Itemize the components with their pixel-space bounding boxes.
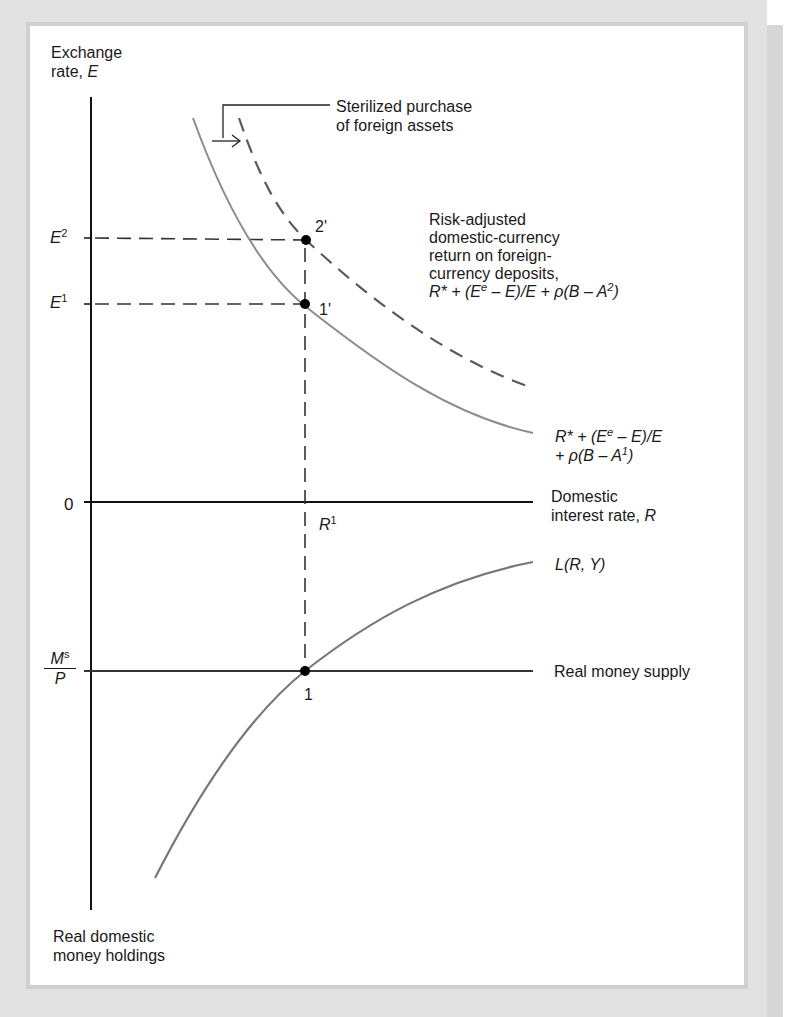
money-holdings-line2: money holdings bbox=[53, 946, 165, 965]
x-axis-label-line2: interest rate, R bbox=[551, 506, 656, 525]
risk-formula-b: – E)/E + ρ(B – A bbox=[487, 283, 607, 300]
r1-base: R bbox=[319, 516, 331, 533]
risk-line3: return on foreign- bbox=[429, 247, 619, 265]
e1-sup: 1 bbox=[61, 292, 67, 304]
x-axis-label-text: interest rate, bbox=[551, 507, 644, 524]
r1-label: R1 bbox=[319, 515, 337, 534]
point-2prime bbox=[301, 235, 311, 245]
y-axis-label-line1: Exchange bbox=[51, 43, 122, 62]
e1-label: E1 bbox=[50, 293, 67, 312]
point-1prime bbox=[300, 299, 310, 309]
point-1-label: 1 bbox=[304, 685, 313, 704]
money-supply-label: Real money supply bbox=[554, 662, 690, 681]
risk-line1: Risk-adjusted bbox=[429, 211, 619, 229]
x-axis-label: Domestic interest rate, R bbox=[551, 487, 656, 525]
curve-a1-line2-a: + ρ(B – A bbox=[555, 447, 622, 464]
r1-sup: 1 bbox=[331, 514, 337, 526]
point-1 bbox=[300, 666, 310, 676]
ms-base: M bbox=[51, 650, 64, 667]
ms-sup: s bbox=[64, 648, 70, 660]
curve-a1-line1-a: R* + (E bbox=[555, 428, 607, 445]
e2-label: E2 bbox=[50, 228, 67, 247]
risk-line4: currency deposits, bbox=[429, 265, 619, 283]
curve-a1-label: R* + (Ee – E)/E + ρ(B – A1) bbox=[555, 427, 662, 465]
curve-a1-line2-b: ) bbox=[628, 447, 633, 464]
ms-numerator: Ms bbox=[44, 650, 76, 669]
curve-a1-line1: R* + (Ee – E)/E bbox=[555, 427, 662, 446]
risk-adjusted-label: Risk-adjusted domestic-currency return o… bbox=[429, 211, 619, 301]
e2-base: E bbox=[50, 228, 61, 247]
e1-base: E bbox=[50, 293, 61, 312]
y-axis-variable: E bbox=[87, 63, 98, 80]
money-holdings-line1: Real domestic bbox=[53, 927, 165, 946]
x-axis-variable: R bbox=[644, 507, 656, 524]
curve-a1-line1-b: – E)/E bbox=[613, 428, 662, 445]
x-axis-label-line1: Domestic bbox=[551, 487, 656, 506]
e2-guide bbox=[95, 238, 305, 240]
risk-formula-c: ) bbox=[613, 283, 618, 300]
ms-denominator: P bbox=[44, 669, 76, 689]
money-demand-label: L(R, Y) bbox=[555, 555, 605, 574]
origin-label: 0 bbox=[64, 495, 73, 514]
money-holdings-label: Real domestic money holdings bbox=[53, 927, 165, 965]
risk-line2: domestic-currency bbox=[429, 229, 619, 247]
point-1prime-label: 1' bbox=[319, 300, 331, 319]
sterilized-line2: of foreign assets bbox=[336, 116, 472, 135]
point-2prime-label: 2' bbox=[315, 217, 327, 236]
y-axis-label: Exchange rate, E bbox=[51, 43, 122, 81]
risk-formula-a: R* + (E bbox=[429, 283, 481, 300]
sterilized-line1: Sterilized purchase bbox=[336, 97, 472, 116]
risk-formula: R* + (Ee – E)/E + ρ(B – A2) bbox=[429, 283, 619, 301]
y-axis-label-text: rate, bbox=[51, 63, 87, 80]
sterilized-purchase-label: Sterilized purchase of foreign assets bbox=[336, 97, 472, 135]
money-demand-curve bbox=[155, 562, 533, 878]
y-axis-label-line2: rate, E bbox=[51, 62, 122, 81]
curve-a1-line2: + ρ(B – A1) bbox=[555, 446, 662, 465]
e2-sup: 2 bbox=[61, 227, 67, 239]
diagram-canvas bbox=[0, 0, 797, 1017]
money-supply-fraction: Ms P bbox=[44, 650, 76, 689]
